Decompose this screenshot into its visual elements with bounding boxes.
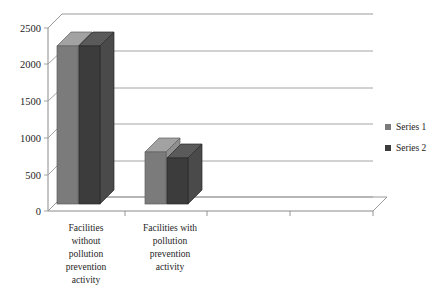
x-axis-category-label-2: Facilities with pollution prevention act… [143,223,197,272]
legend-swatch-series2-icon [385,145,391,151]
y-tick-label-1500: 1500 [20,96,41,107]
bar-group-1 [57,32,114,204]
x-tick-marks [125,211,373,216]
legend-label-series1: Series 1 [396,122,427,132]
bar-group-2 [145,138,202,204]
bar-side-face [100,32,114,204]
bar-chart-3d: 2500 2000 1500 1000 500 0 [0,0,447,295]
legend-item-series2[interactable]: Series 2 [385,143,427,153]
bar-series2-category1[interactable] [79,32,114,204]
y-tick-label-2000: 2000 [20,59,41,70]
category1-line4: prevention [66,262,107,272]
category2-line2: pollution [153,236,188,246]
chart-container: 2500 2000 1500 1000 500 0 [0,0,447,295]
category2-line4: activity [156,262,185,272]
x-axis-category-label-1: Facilities without pollution prevention … [66,223,107,285]
y-tick-label-0: 0 [36,206,41,217]
category1-line3: pollution [69,249,104,259]
category2-line1: Facilities with [143,223,197,233]
legend-label-series2: Series 2 [396,143,427,153]
legend-swatch-series1-icon [385,124,391,130]
y-tick-label-500: 500 [25,170,41,181]
y-tick-2500 [44,14,62,28]
y-axis-tick-labels: 2500 2000 1500 1000 500 0 [20,23,41,217]
category1-line2: without [71,236,100,246]
category1-line1: Facilities [69,223,104,233]
floor-right-edge [373,197,387,211]
bar-front-face [57,46,78,204]
y-tick-label-1000: 1000 [20,133,41,144]
category1-line5: activity [72,275,101,285]
bar-front-face [167,158,188,204]
back-wall-top-edge [48,14,373,28]
bar-front-face [79,46,100,204]
y-tick-label-2500: 2500 [20,23,41,34]
chart-legend: Series 1 Series 2 [385,122,427,153]
bar-series2-category2[interactable] [167,144,202,204]
category2-line3: prevention [150,249,191,259]
legend-item-series1[interactable]: Series 1 [385,122,427,132]
bar-front-face [145,152,166,204]
